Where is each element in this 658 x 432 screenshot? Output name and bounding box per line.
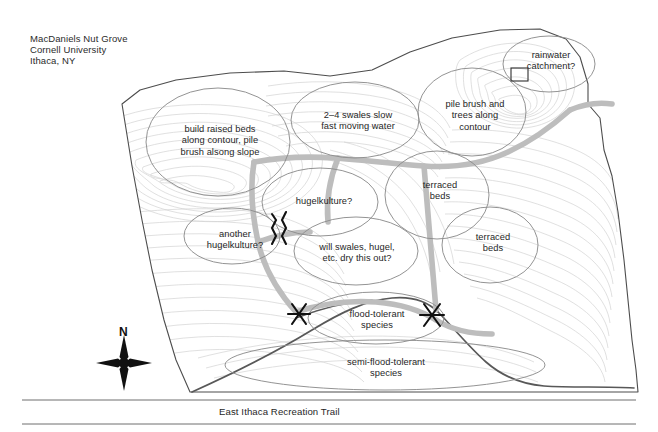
title-line-organization: MacDaniels Nut Grove bbox=[30, 33, 128, 44]
annotation-terraced-beds-lower: terraced beds bbox=[458, 232, 528, 255]
annotation-swales: 2–4 swales slow fast moving water bbox=[302, 110, 414, 133]
annotation-pile-brush: pile brush and trees along contour bbox=[427, 99, 523, 133]
annotation-rainwater-catchment: rainwater catchment? bbox=[509, 50, 593, 73]
swale-paths bbox=[252, 103, 612, 334]
annotation-terraced-beds-upper: terraced beds bbox=[405, 180, 475, 203]
compass-rose bbox=[96, 335, 152, 391]
annotation-hugelkulture: hugelkulture? bbox=[282, 196, 366, 207]
site-boundary bbox=[122, 29, 638, 392]
title-line-location: Ithaca, NY bbox=[30, 55, 128, 66]
title-block: MacDaniels Nut Grove Cornell University … bbox=[30, 33, 128, 67]
annotation-flood-tolerant: flood-tolerant species bbox=[329, 309, 425, 332]
annotation-ellipses bbox=[146, 36, 595, 390]
site-plan-page: MacDaniels Nut Grove Cornell University … bbox=[0, 0, 658, 432]
annotation-another-hugelkulture: another hugelkulture? bbox=[192, 229, 278, 252]
annotation-raised-beds: build raised beds along contour, pile br… bbox=[160, 124, 280, 158]
annotation-semi-flood-tolerant: semi-flood-tolerant species bbox=[324, 357, 448, 380]
trail-label: East Ithaca Recreation Trail bbox=[219, 406, 340, 417]
compass-north-label: N bbox=[119, 325, 128, 339]
title-line-institution: Cornell University bbox=[30, 44, 128, 55]
annotation-dry-out: will swales, hugel, etc. dry this out? bbox=[301, 242, 413, 265]
